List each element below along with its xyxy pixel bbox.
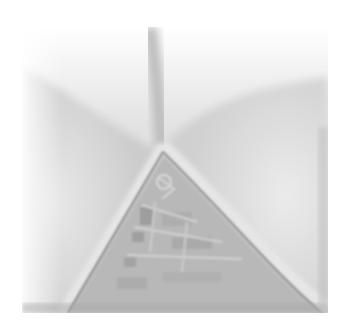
micrograph-graphic [22, 27, 328, 313]
micrograph-image [22, 27, 328, 313]
